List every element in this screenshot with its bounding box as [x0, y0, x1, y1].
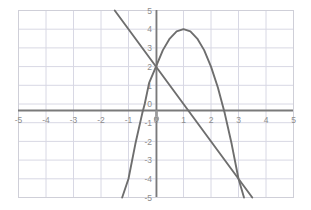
y-tick-label: 0	[147, 99, 152, 109]
y-tick-label: 4	[147, 24, 152, 34]
y-tick-label: 2	[147, 62, 152, 72]
x-tick-label: 1	[181, 115, 186, 125]
x-tick-label: -4	[42, 115, 50, 125]
x-tick-label: -1	[125, 115, 133, 125]
x-tick-label: 5	[291, 115, 296, 125]
x-tick-label: 3	[236, 115, 241, 125]
y-tick-label: -3	[144, 155, 152, 165]
x-tick-label: -3	[70, 115, 78, 125]
x-tick-label: 0	[154, 115, 159, 125]
coordinate-plane-chart: -5-4-3-2-1012345 543210-1-2-3-4-5	[0, 0, 311, 210]
y-tick-label: -1	[144, 118, 152, 128]
y-tick-label: -5	[144, 193, 152, 203]
y-tick-label: 3	[147, 43, 152, 53]
y-tick-label: -4	[144, 174, 152, 184]
x-tick-label: -5	[15, 115, 23, 125]
y-tick-label: -2	[144, 137, 152, 147]
x-tick-label: -2	[97, 115, 105, 125]
x-tick-label: 2	[209, 115, 214, 125]
x-tick-label: 4	[264, 115, 269, 125]
graph-container: -5-4-3-2-1012345 543210-1-2-3-4-5	[0, 0, 311, 210]
y-tick-label: 5	[147, 6, 152, 16]
